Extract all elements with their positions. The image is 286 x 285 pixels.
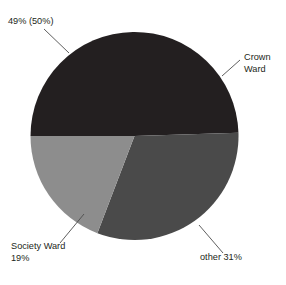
label-crown-ward-line2: Ward bbox=[244, 64, 271, 76]
label-society-ward-line2: 19% bbox=[11, 253, 65, 265]
leader-line-crown-ward bbox=[222, 60, 240, 76]
label-society-ward-line1: Society Ward bbox=[11, 241, 65, 253]
pie-slice-crown-ward[interactable] bbox=[30, 32, 238, 136]
label-crown-percent: 49% (50%) bbox=[8, 16, 53, 28]
label-crown-ward-line1: Crown bbox=[244, 52, 271, 64]
pie-chart-figure: Ontario Children in Care 49% (50%) Crown… bbox=[0, 0, 286, 285]
label-society-ward: Society Ward 19% bbox=[11, 241, 65, 264]
chart-title: Ontario Children in Care bbox=[0, 0, 286, 1]
label-crown-ward: Crown Ward bbox=[244, 52, 271, 75]
label-other: other 31% bbox=[200, 252, 242, 264]
leader-line-crown-percent bbox=[44, 29, 69, 53]
leader-line-other bbox=[199, 225, 223, 253]
